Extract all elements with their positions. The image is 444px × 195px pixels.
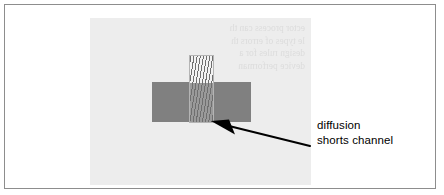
caption-line-1: diffusion xyxy=(317,118,393,133)
caption-line-2: shorts channel xyxy=(317,133,393,148)
diffusion-hatch-pattern xyxy=(189,55,214,123)
diffusion-stripe-shape xyxy=(189,55,214,123)
figure-border: ector process can th le types of errors … xyxy=(4,4,436,189)
figure-root: ector process can th le types of errors … xyxy=(0,0,444,195)
photo-panel: ector process can th le types of errors … xyxy=(90,18,311,185)
annotation-caption: diffusion shorts channel xyxy=(317,118,393,147)
leader-arrow-icon xyxy=(203,115,315,151)
